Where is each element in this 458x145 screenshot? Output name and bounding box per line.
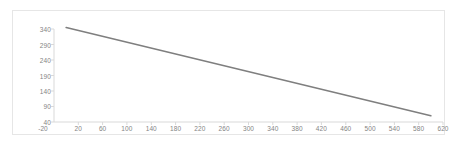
x-tick-label: 300 [243, 125, 254, 132]
plot-svg [54, 29, 443, 122]
chart-frame: 340 290 240 190 140 90 40 [12, 10, 445, 135]
y-tick-label: 240 [40, 56, 51, 63]
x-tick-label: 540 [389, 125, 400, 132]
y-tick-label: 140 [40, 88, 51, 95]
y-axis-tick-labels: 340 290 240 190 140 90 40 [27, 29, 51, 122]
y-tick-label: 340 [40, 26, 51, 33]
x-tick-label: 460 [340, 125, 351, 132]
y-tick-label: 190 [40, 72, 51, 79]
x-tick-label: -20 [38, 125, 47, 132]
x-axis-tick-labels: 20 60 100 140 180 220 260 300 340 380 42… [54, 125, 443, 137]
plot-area [54, 29, 443, 122]
x-tick-label: 260 [219, 125, 230, 132]
data-series-line [66, 27, 431, 115]
x-tick-label: 60 [99, 125, 106, 132]
x-tick-label: 420 [316, 125, 327, 132]
x-tick-label: 580 [413, 125, 424, 132]
y-tick-label: 290 [40, 41, 51, 48]
x-tick-label: 340 [267, 125, 278, 132]
chart-screenshot: 340 290 240 190 140 90 40 [0, 0, 458, 145]
x-tick-label: 140 [146, 125, 157, 132]
x-tick-label: 180 [170, 125, 181, 132]
x-tick-label: 500 [364, 125, 375, 132]
x-tick-label: 100 [121, 125, 132, 132]
x-tick-label: 20 [75, 125, 82, 132]
x-tick-label: 620 [437, 125, 448, 132]
x-tick-label: 220 [194, 125, 205, 132]
y-tick-label: 90 [44, 103, 51, 110]
x-tick-label: 380 [292, 125, 303, 132]
